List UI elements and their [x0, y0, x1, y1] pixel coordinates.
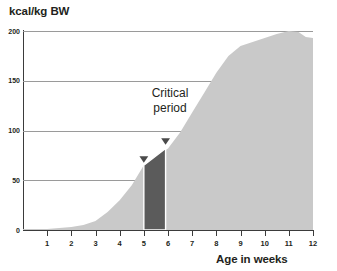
x-tick-mark-9 [241, 231, 242, 236]
x-tick-label-1: 1 [39, 239, 55, 248]
x-tick-mark-7 [192, 231, 193, 236]
x-tick-mark-11 [289, 231, 290, 236]
x-tick-mark-5 [144, 231, 145, 236]
x-tick-mark-6 [168, 231, 169, 236]
x-tick-label-11: 11 [281, 239, 297, 248]
x-tick-mark-8 [216, 231, 217, 236]
marker-right-triangle-down-icon [161, 138, 170, 145]
series-plot [23, 31, 313, 230]
critical-period-line-1: Critical [152, 86, 189, 100]
critical-period-annotation: Critical period [133, 86, 207, 115]
x-tick-mark-3 [96, 231, 97, 236]
x-tick-label-3: 3 [88, 239, 104, 248]
marker-left-triangle-down-icon [139, 156, 148, 163]
y-tick-label-50: 50 [12, 177, 20, 184]
x-tick-mark-2 [71, 231, 72, 236]
area-series-energy-requirement [23, 31, 313, 230]
y-tick-label-0: 0 [16, 227, 20, 234]
critical-period-line-2: period [153, 101, 186, 115]
x-tick-label-6: 6 [160, 239, 176, 248]
x-tick-label-8: 8 [208, 239, 224, 248]
x-tick-label-12: 12 [305, 239, 321, 248]
x-tick-mark-1 [47, 231, 48, 236]
y-tick-label-150: 150 [8, 77, 20, 84]
x-tick-label-7: 7 [184, 239, 200, 248]
y-axis-title: kcal/kg BW [9, 4, 69, 18]
x-tick-label-5: 5 [136, 239, 152, 248]
y-tick-label-100: 100 [8, 127, 20, 134]
critical-period-bar [144, 148, 166, 230]
y-tick-label-200: 200 [8, 28, 20, 35]
x-tick-mark-12 [313, 231, 314, 236]
energy-requirement-chart: kcal/kg BW 050100150200 123456789101112 … [0, 0, 337, 271]
x-tick-label-9: 9 [233, 239, 249, 248]
x-tick-label-10: 10 [257, 239, 273, 248]
x-axis-title: Age in weeks [216, 252, 288, 266]
x-tick-mark-10 [265, 231, 266, 236]
x-tick-label-2: 2 [63, 239, 79, 248]
x-tick-mark-4 [120, 231, 121, 236]
x-tick-label-4: 4 [112, 239, 128, 248]
